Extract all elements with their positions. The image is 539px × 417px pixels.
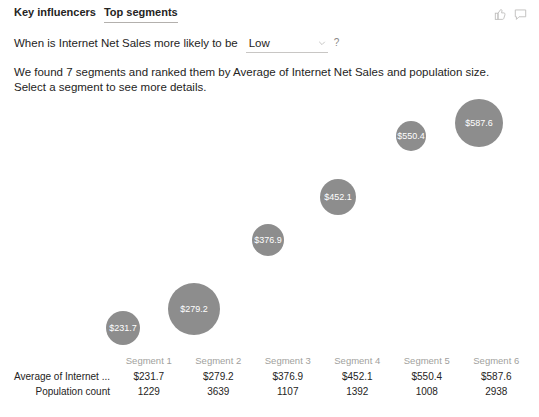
table-row-label: Average of Internet ... — [6, 369, 114, 384]
table-cell: $231.7 — [114, 369, 184, 384]
segments-bubble-chart: $231.7$279.2$376.9$452.1$550.4$587.6 — [0, 97, 539, 355]
segment-bubble-label: $587.6 — [465, 118, 493, 128]
segments-table-wrap: Segment 1 Segment 2 Segment 3 Segment 4 … — [0, 353, 539, 399]
visual-header: Key influencers Top segments — [0, 0, 539, 28]
table-cell: 3639 — [184, 384, 254, 399]
table-corner-cell — [6, 353, 114, 369]
table-col-header[interactable]: Segment 2 — [184, 353, 254, 369]
table-row: Population count 1229 3639 1107 1392 100… — [6, 384, 531, 399]
table-col-header[interactable]: Segment 1 — [114, 353, 184, 369]
segment-bubble[interactable]: $231.7 — [106, 311, 140, 345]
segment-bubble[interactable]: $550.4 — [396, 121, 426, 151]
segment-bubble-label: $231.7 — [109, 323, 137, 333]
segment-bubble-label: $376.9 — [254, 235, 282, 245]
segment-bubble[interactable]: $587.6 — [455, 99, 503, 147]
table-cell: $279.2 — [184, 369, 254, 384]
table-cell: 1392 — [323, 384, 393, 399]
segment-bubble[interactable]: $452.1 — [320, 179, 356, 215]
measure-level-dropdown[interactable]: Low — [246, 34, 328, 53]
description-line-1: We found 7 segments and ranked them by A… — [14, 65, 484, 80]
table-cell: $587.6 — [462, 369, 532, 384]
segment-bubble-label: $550.4 — [397, 131, 425, 141]
table-cell: 1107 — [253, 384, 323, 399]
chevron-down-icon — [318, 39, 326, 47]
table-cell: $376.9 — [253, 369, 323, 384]
tab-key-influencers-label: Key influencers — [14, 6, 96, 18]
segment-bubble-label: $279.2 — [180, 304, 208, 314]
table-cell: 2938 — [462, 384, 532, 399]
table-row-label: Population count — [6, 384, 114, 399]
segment-bubble[interactable]: $376.9 — [252, 224, 284, 256]
table-cell: 1229 — [114, 384, 184, 399]
question-prompt: When is Internet Net Sales more likely t… — [14, 36, 238, 50]
table-cell: 1008 — [392, 384, 462, 399]
table-col-header[interactable]: Segment 6 — [462, 353, 532, 369]
help-icon[interactable]: ? — [334, 36, 340, 50]
table-row: Average of Internet ... $231.7 $279.2 $3… — [6, 369, 531, 384]
tab-key-influencers[interactable]: Key influencers — [14, 6, 96, 23]
table-cell: $452.1 — [323, 369, 393, 384]
segment-bubble-label: $452.1 — [324, 192, 352, 202]
header-icon-group — [494, 8, 527, 21]
table-col-header[interactable]: Segment 5 — [392, 353, 462, 369]
segments-table: Segment 1 Segment 2 Segment 3 Segment 4 … — [6, 353, 531, 399]
tab-top-segments[interactable]: Top segments — [104, 6, 178, 23]
measure-level-value: Low — [249, 36, 270, 50]
segments-description: We found 7 segments and ranked them by A… — [14, 65, 484, 95]
tab-top-segments-label: Top segments — [104, 6, 178, 18]
tab-list: Key influencers Top segments — [14, 6, 178, 23]
table-header-row: Segment 1 Segment 2 Segment 3 Segment 4 … — [6, 353, 531, 369]
description-line-2: Select a segment to see more details. — [14, 80, 484, 95]
comment-icon[interactable] — [514, 8, 527, 21]
table-cell: $550.4 — [392, 369, 462, 384]
question-row: When is Internet Net Sales more likely t… — [14, 31, 529, 55]
table-col-header[interactable]: Segment 4 — [323, 353, 393, 369]
thumbs-up-icon[interactable] — [494, 8, 507, 21]
segment-bubble[interactable]: $279.2 — [168, 283, 220, 335]
table-col-header[interactable]: Segment 3 — [253, 353, 323, 369]
